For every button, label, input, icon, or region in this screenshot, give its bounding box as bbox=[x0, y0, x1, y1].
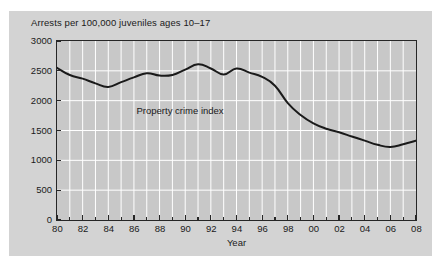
x-tick-mark bbox=[326, 217, 327, 220]
x-tick-mark bbox=[197, 217, 198, 220]
x-tick-mark bbox=[313, 215, 314, 220]
x-tick-mark bbox=[403, 217, 404, 220]
y-tick-mark bbox=[57, 160, 61, 161]
x-tick-label: 94 bbox=[232, 223, 243, 234]
x-tick-label: 86 bbox=[129, 223, 140, 234]
x-axis-title: Year bbox=[56, 237, 417, 248]
y-tick-mark bbox=[57, 40, 61, 41]
x-tick-mark bbox=[236, 215, 237, 220]
y-tick-mark bbox=[57, 100, 61, 101]
x-tick-label: 92 bbox=[206, 223, 217, 234]
x-tick-label: 90 bbox=[180, 223, 191, 234]
y-tick-label: 1500 bbox=[31, 124, 52, 135]
x-tick-mark bbox=[287, 215, 288, 220]
x-tick-mark bbox=[159, 215, 160, 220]
x-tick-label: 06 bbox=[385, 223, 396, 234]
y-tick-mark bbox=[57, 130, 61, 131]
x-tick-label: 08 bbox=[411, 223, 422, 234]
y-tick-label: 1000 bbox=[31, 154, 52, 165]
x-tick-mark bbox=[415, 215, 416, 220]
x-tick-mark bbox=[210, 215, 211, 220]
x-tick-label: 96 bbox=[257, 223, 268, 234]
x-tick-mark bbox=[249, 217, 250, 220]
x-tick-mark bbox=[274, 217, 275, 220]
x-tick-mark bbox=[121, 217, 122, 220]
y-tick-mark bbox=[57, 219, 61, 220]
x-tick-mark bbox=[69, 217, 70, 220]
x-tick-mark bbox=[377, 217, 378, 220]
x-tick-mark bbox=[300, 217, 301, 220]
x-tick-mark bbox=[172, 217, 173, 220]
x-tick-label: 04 bbox=[360, 223, 371, 234]
x-tick-mark bbox=[364, 215, 365, 220]
x-tick-label: 80 bbox=[52, 223, 63, 234]
x-tick-mark bbox=[351, 217, 352, 220]
x-tick-mark bbox=[262, 215, 263, 220]
x-tick-mark bbox=[146, 217, 147, 220]
y-axis-tick-labels: 050010001500200025003000 bbox=[18, 40, 52, 219]
axis-caption: Arrests per 100,000 juveniles ages 10–17 bbox=[31, 17, 210, 28]
x-tick-mark bbox=[95, 217, 96, 220]
y-tick-mark bbox=[57, 70, 61, 71]
figure-root: Arrests per 100,000 juveniles ages 10–17… bbox=[0, 0, 441, 271]
x-axis-tick-labels: 808284868890929496980002040608 bbox=[56, 223, 417, 237]
y-tick-mark bbox=[57, 190, 61, 191]
x-tick-mark bbox=[223, 217, 224, 220]
x-tick-mark bbox=[82, 215, 83, 220]
x-tick-mark bbox=[133, 215, 134, 220]
x-tick-label: 00 bbox=[309, 223, 320, 234]
x-tick-mark bbox=[108, 215, 109, 220]
plot-svg bbox=[57, 41, 416, 220]
y-tick-label: 500 bbox=[36, 184, 52, 195]
x-tick-label: 84 bbox=[103, 223, 114, 234]
figure-card: Arrests per 100,000 juveniles ages 10–17… bbox=[9, 11, 432, 256]
y-tick-label: 3000 bbox=[31, 35, 52, 46]
x-tick-label: 98 bbox=[283, 223, 294, 234]
series-annotation-property-crime-index: Property crime index bbox=[136, 105, 223, 116]
x-tick-label: 02 bbox=[334, 223, 345, 234]
x-tick-mark bbox=[338, 215, 339, 220]
y-tick-label: 2500 bbox=[31, 64, 52, 75]
plot-area: Property crime index bbox=[56, 40, 417, 221]
x-tick-label: 82 bbox=[78, 223, 89, 234]
x-tick-mark bbox=[390, 215, 391, 220]
x-tick-mark bbox=[185, 215, 186, 220]
y-tick-label: 2000 bbox=[31, 94, 52, 105]
x-tick-label: 88 bbox=[155, 223, 166, 234]
